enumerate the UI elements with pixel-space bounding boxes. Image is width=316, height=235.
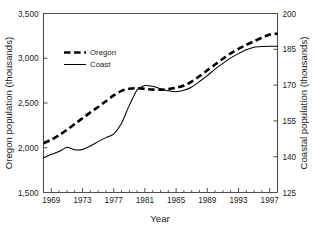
y-tick-label: 3,000: [18, 54, 39, 63]
x-tick-label: 1977: [105, 196, 124, 205]
y-axis-title: Oregon population (thousands): [3, 37, 14, 169]
x-tick-label: 1985: [167, 196, 186, 205]
y2-tick-label: 200: [283, 10, 297, 19]
series-line-coast: [44, 46, 278, 158]
y2-axis-title: Coastal population (thousands): [298, 37, 309, 170]
y-tick-label: 3,500: [18, 10, 39, 19]
y2-tick-label: 140: [283, 153, 297, 162]
x-axis-title: Year: [150, 213, 170, 224]
legend-label-coast: Coast: [90, 60, 111, 69]
y2-tick-label: 125: [283, 189, 297, 198]
x-tick-label: 1981: [136, 196, 155, 205]
x-tick-label: 1993: [229, 196, 248, 205]
y2-axis-ticks: [274, 14, 278, 193]
y2-axis-tick-labels: 125140155170185200: [283, 10, 297, 198]
y-tick-label: 2,500: [18, 99, 39, 108]
x-tick-label: 1989: [198, 196, 217, 205]
legend-label-oregon: Oregon: [90, 48, 116, 57]
plot-axes: [44, 13, 278, 193]
y2-tick-label: 185: [283, 45, 297, 54]
y2-tick-label: 155: [283, 117, 297, 126]
x-axis-ticks: [44, 188, 278, 193]
y-tick-label: 2,000: [18, 144, 39, 153]
y-axis-ticks: [44, 14, 48, 193]
population-line-chart: 1,5002,0002,5003,0003,500 12514015517018…: [0, 0, 316, 235]
x-tick-label: 1969: [42, 196, 61, 205]
y2-tick-label: 170: [283, 81, 297, 90]
chart-legend: Oregon Coast: [64, 48, 116, 69]
y-axis-tick-labels: 1,5002,0002,5003,0003,500: [18, 10, 39, 198]
y-tick-label: 1,500: [18, 189, 39, 198]
series-line-oregon: [44, 34, 278, 144]
x-tick-label: 1997: [261, 196, 280, 205]
x-tick-label: 1973: [73, 196, 92, 205]
x-axis-tick-labels: 19691973197719811985198919931997: [42, 196, 279, 205]
chart-figure: 1,5002,0002,5003,0003,500 12514015517018…: [0, 0, 316, 235]
